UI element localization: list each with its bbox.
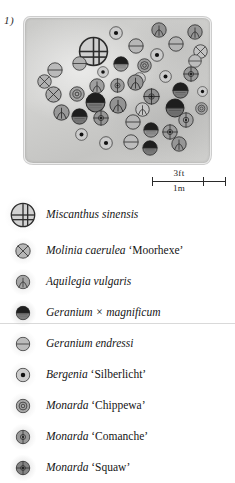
plan-symbol-dot-circle <box>159 70 172 83</box>
legend-plant-name: Monarda ‘Squaw’ <box>46 461 130 474</box>
legend-symbol-arch-circle <box>0 267 46 297</box>
plan-symbol-hline-circle <box>188 54 202 68</box>
plan-symbol-halffill-circle <box>113 56 129 72</box>
legend-row: Monarda ‘Chippewa’ <box>0 390 235 421</box>
plan-symbol-vdot-circle <box>110 78 125 93</box>
legend-symbol-glyph <box>16 274 31 289</box>
plan-symbol-dot-circle <box>75 128 88 141</box>
legend-plant-name: Aquilegia vulgaris <box>46 275 131 288</box>
legend-botanical-name: Molinia caerulea <box>46 244 126 256</box>
legend-botanical-name: Aquilegia vulgaris <box>46 275 131 287</box>
legend-botanical-name: Monarda <box>46 430 88 442</box>
legend-symbol-glyph <box>15 243 31 259</box>
plan-symbol-arch-circle <box>127 74 144 91</box>
legend-botanical-name: Geranium endressi <box>46 337 133 349</box>
legend-plant-name: Bergenia ‘Silberlicht’ <box>46 368 146 381</box>
plan-symbol-dot-circle <box>99 136 113 150</box>
legend-row: Monarda ‘Comanche’ <box>0 421 235 452</box>
legend-row: Monarda ‘Squaw’ <box>0 452 235 483</box>
scale-bar-line <box>152 181 226 182</box>
legend-botanical-name: Geranium × magnificum <box>46 306 160 318</box>
legend-symbol-hline-circle <box>0 329 46 359</box>
plan-symbol-hline-circle <box>125 114 141 130</box>
legend-botanical-name: Monarda <box>46 399 88 411</box>
legend-row: Bergenia ‘Silberlicht’ <box>0 359 235 390</box>
plan-symbol-halffill-circle <box>71 108 88 125</box>
legend-botanical-name: Miscanthus sinensis <box>46 208 138 220</box>
legend-cultivar-name: ‘Moorhexe’ <box>128 244 183 256</box>
scale-label-imperial: 3ft <box>142 168 216 178</box>
plan-symbol-arch-circle <box>53 104 70 121</box>
plan-symbol-halffill-circle <box>142 140 158 156</box>
legend-symbol-glyph <box>16 398 31 413</box>
plan-symbol-ring-circle <box>195 102 208 115</box>
plan-symbol-arch-circle <box>171 136 187 152</box>
legend-symbol-glyph <box>16 305 31 320</box>
scale-bar: 3ft 1m <box>152 170 226 194</box>
plan-symbol-dot-circle <box>197 86 208 97</box>
plan-symbol-dot-circle <box>109 26 123 40</box>
legend-symbol-glyph <box>16 460 31 475</box>
plan-symbol-hline-circle <box>168 36 184 52</box>
plant-legend: Miscanthus sinensis Molinia caerulea ‘Mo… <box>0 195 235 483</box>
legend-symbol-cross-dot-circle <box>0 453 46 483</box>
scale-tick-end <box>225 177 226 186</box>
legend-plant-name: Molinia caerulea ‘Moorhexe’ <box>46 244 183 257</box>
legend-plant-name: Monarda ‘Chippewa’ <box>46 399 146 412</box>
legend-cultivar-name: ‘Silberlicht’ <box>91 368 147 380</box>
plan-symbol-hline-circle <box>123 134 139 150</box>
legend-plant-name: Geranium × magnificum <box>46 306 160 319</box>
legend-plant-name: Geranium endressi <box>46 337 133 350</box>
legend-cultivar-name: ‘Comanche’ <box>91 430 148 442</box>
legend-cultivar-name: ‘Chippewa’ <box>91 399 145 411</box>
scale-label-metric: 1m <box>142 183 216 193</box>
legend-symbol-vdot-circle <box>0 422 46 452</box>
figure-number: 1) <box>4 14 14 26</box>
legend-plant-name: Monarda ‘Comanche’ <box>46 430 148 443</box>
plan-symbol-x-circle <box>37 74 52 89</box>
legend-symbol-ring-circle <box>0 391 46 421</box>
legend-symbol-glyph <box>16 367 31 382</box>
legend-row: Miscanthus sinensis <box>0 195 235 235</box>
plan-symbol-hline-circle <box>128 38 144 54</box>
planting-plan <box>25 18 210 163</box>
legend-symbol-x-circle <box>0 236 46 266</box>
plan-symbol-arch-circle <box>151 22 167 38</box>
legend-symbol-grid-circle <box>0 200 46 230</box>
legend-botanical-name: Bergenia <box>46 368 88 380</box>
plan-symbol-cross-dot-circle <box>93 110 109 126</box>
legend-botanical-name: Monarda <box>46 461 88 473</box>
legend-row: Geranium endressi <box>0 328 235 359</box>
plan-symbol-arch-circle <box>109 96 127 114</box>
legend-symbol-dot-circle <box>0 360 46 390</box>
legend-plant-name: Miscanthus sinensis <box>46 208 138 221</box>
legend-symbol-glyph <box>16 429 31 444</box>
legend-symbol-glyph <box>16 336 31 351</box>
legend-row: Molinia caerulea ‘Moorhexe’ <box>0 235 235 266</box>
plan-symbol-halffill-circle <box>143 122 159 138</box>
legend-symbol-glyph <box>10 202 36 228</box>
legend-row: Aquilegia vulgaris <box>0 266 235 297</box>
plan-symbol-vdot-circle <box>178 112 194 128</box>
legend-cultivar-name: ‘Squaw’ <box>91 461 130 473</box>
plan-symbol-hline-circle <box>72 56 87 71</box>
legend-divider <box>0 323 235 324</box>
plan-symbol-arch-circle <box>187 24 203 40</box>
